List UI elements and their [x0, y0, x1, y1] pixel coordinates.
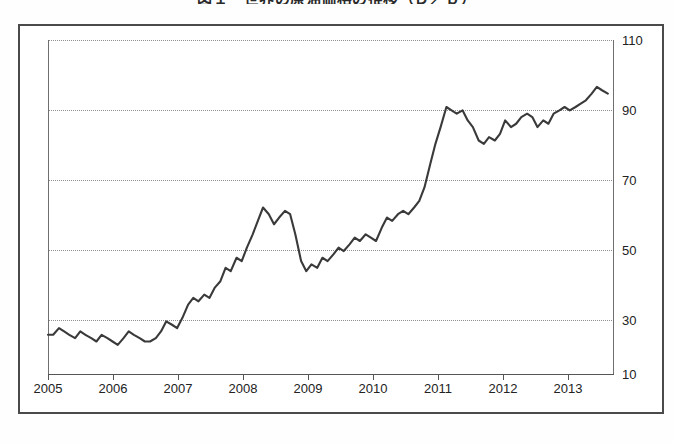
y-axis-line-left [48, 40, 49, 375]
x-tick-mark-2005 [48, 375, 49, 380]
x-tick-label-2012: 2012 [478, 382, 528, 396]
y-axis-line-right [613, 40, 614, 375]
gridline-90 [48, 110, 614, 111]
y-tick-label-90: 90 [622, 104, 656, 117]
x-tick-mark-2012 [503, 375, 504, 380]
x-axis-line [48, 374, 614, 375]
x-tick-label-2005: 2005 [23, 382, 73, 396]
gridline-110 [48, 40, 614, 41]
y-tick-label-30: 30 [622, 314, 656, 327]
x-tick-mark-2008 [243, 375, 244, 380]
gridline-30 [48, 320, 614, 321]
x-tick-label-2010: 2010 [348, 382, 398, 396]
plot-area [48, 40, 614, 375]
gridline-50 [48, 250, 614, 251]
x-tick-mark-2013 [568, 375, 569, 380]
x-tick-label-2006: 2006 [88, 382, 138, 396]
y-tick-label-10: 10 [622, 368, 656, 381]
chart-title: 図１ 世界の原油価格の推移（Ｄ／ｂ） [0, 0, 673, 4]
gridline-70 [48, 180, 614, 181]
y-tick-label-110: 110 [622, 34, 656, 47]
x-tick-label-2008: 2008 [218, 382, 268, 396]
x-tick-label-2007: 2007 [153, 382, 203, 396]
x-tick-label-2009: 2009 [283, 382, 333, 396]
x-tick-label-2013: 2013 [543, 382, 593, 396]
x-tick-label-2011: 2011 [413, 382, 463, 396]
x-tick-mark-2010 [373, 375, 374, 380]
x-tick-mark-2011 [438, 375, 439, 380]
x-tick-mark-2006 [113, 375, 114, 380]
scanned-page: 図１ 世界の原油価格の推移（Ｄ／ｂ） 110 90 70 50 30 10 20… [0, 0, 673, 444]
x-tick-mark-2007 [178, 375, 179, 380]
y-tick-label-70: 70 [622, 174, 656, 187]
x-tick-mark-2009 [308, 375, 309, 380]
y-tick-label-50: 50 [622, 244, 656, 257]
